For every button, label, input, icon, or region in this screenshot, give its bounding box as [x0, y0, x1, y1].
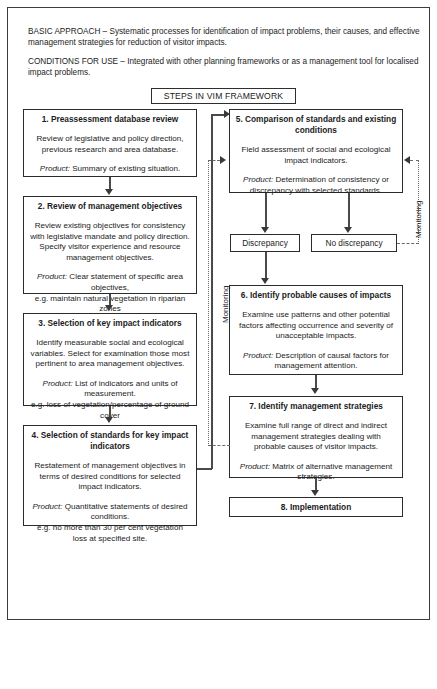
monitoring-left-dashed-vertical — [208, 160, 209, 446]
step-box-3: 3. Selection of key impact indicators Id… — [23, 313, 197, 406]
step-3-title: 3. Selection of key impact indicators — [29, 318, 191, 329]
connector-4-to-5-horizontal-out — [197, 468, 212, 470]
step-5-body: Field assessment of social and ecologica… — [235, 145, 397, 166]
step-6-body: Examine use patterns and other potential… — [235, 310, 397, 342]
step-2-product: Product: Clear statement of specific are… — [29, 272, 191, 293]
connector-5-to-discrepancy — [265, 193, 267, 229]
arrow-5-to-no-discrepancy — [344, 227, 352, 233]
monitoring-right-dashed-into-5 — [410, 160, 419, 161]
step-box-7: 7. Identify management strategies Examin… — [229, 396, 403, 478]
step-5-title: 5. Comparison of standards and existing … — [235, 114, 397, 136]
step-1-product-label: Product: — [40, 164, 70, 173]
basic-approach-paragraph: BASIC APPROACH – Systematic processes fo… — [28, 26, 423, 49]
arrow-6-to-7 — [311, 388, 319, 394]
step-7-title: 7. Identify management strategies — [235, 401, 397, 412]
step-3-product: Product: List of indicators and units of… — [29, 379, 191, 400]
arrow-monitoring-right-into-5 — [404, 156, 410, 164]
arrow-2-to-3 — [105, 305, 113, 311]
step-1-product: Product: Summary of existing situation. — [29, 164, 191, 175]
step-6-title: 6. Identify probable causes of impacts — [235, 290, 397, 301]
steps-banner: STEPS IN VIM FRAMEWORK — [151, 88, 296, 104]
arrow-3-to-4 — [105, 417, 113, 423]
arrow-monitoring-left-into-5 — [220, 156, 226, 164]
step-7-body: Examine full range of direct and indirec… — [235, 421, 397, 453]
step-3-body: Identify measurable social and ecologica… — [29, 338, 191, 370]
step-4-product: Product: Quantitative statements of desi… — [29, 502, 191, 523]
step-1-product-text: Summary of existing situation. — [70, 164, 180, 173]
step-box-4: 4. Selection of standards for key impact… — [23, 425, 197, 526]
step-4-title: 4. Selection of standards for key impact… — [29, 430, 191, 452]
step-5-product-label: Product: — [243, 175, 273, 184]
steps-banner-label: STEPS IN VIM FRAMEWORK — [164, 91, 283, 101]
decision-discrepancy-label: Discrepancy — [242, 238, 288, 248]
arrow-7-to-8 — [311, 490, 319, 496]
arrow-1-to-2 — [105, 189, 113, 195]
connector-5-to-no-discrepancy — [348, 193, 350, 229]
step-7-product-label: Product: — [240, 462, 270, 471]
step-2-title: 2. Review of management objectives — [29, 201, 191, 212]
monitoring-left-dashed-from-7 — [208, 445, 230, 446]
connector-4-to-5-horizontal-in — [211, 114, 225, 116]
step-box-5: 5. Comparison of standards and existing … — [229, 109, 403, 193]
step-5-product: Product: Determination of consistency or… — [235, 175, 397, 196]
conditions-for-use-paragraph: CONDITIONS FOR USE – Integrated with oth… — [28, 56, 423, 79]
step-6-product-label: Product: — [243, 351, 273, 360]
step-box-2: 2. Review of management objectives Revie… — [23, 196, 197, 294]
step-6-product-text: Description of causal factors for manage… — [273, 351, 389, 371]
step-1-body: Review of legislative and policy directi… — [29, 134, 191, 155]
arrow-discrepancy-to-6 — [261, 278, 269, 284]
step-box-1: 1. Preassessment database review Review … — [23, 109, 197, 177]
connector-4-to-5-vertical — [211, 114, 213, 469]
monitoring-left-text: Monitoring — [221, 286, 230, 323]
arrow-5-to-discrepancy — [261, 227, 269, 233]
decision-no-discrepancy-label: No discrepancy — [325, 238, 382, 248]
step-3-product-label: Product: — [43, 379, 73, 388]
step-1-title: 1. Preassessment database review — [29, 114, 191, 125]
step-8-label: 8. Implementation — [281, 502, 352, 512]
connector-discrepancy-to-6 — [265, 252, 267, 280]
monitoring-label-left: Monitoring — [221, 286, 230, 323]
monitoring-right-dashed-from-no-discrepancy — [397, 243, 419, 244]
figure-canvas: BASIC APPROACH – Systematic processes fo… — [0, 0, 437, 689]
step-4-product-text: Quantitative statements of desired condi… — [63, 502, 188, 522]
step-box-6: 6. Identify probable causes of impacts E… — [229, 285, 403, 375]
step-4-product-label: Product: — [32, 502, 62, 511]
monitoring-right-text: Monitoring — [414, 201, 423, 238]
monitoring-label-right: Monitoring — [414, 201, 423, 238]
step-7-product-text: Matrix of alternative management strateg… — [270, 462, 392, 482]
step-4-body: Restatement of management objectives in … — [29, 461, 191, 493]
step-2-body: Review existing objectives for consisten… — [29, 221, 191, 263]
monitoring-left-dashed-into-5 — [208, 160, 220, 161]
decision-box-discrepancy: Discrepancy — [230, 234, 300, 252]
step-box-8-implementation: 8. Implementation — [229, 497, 403, 517]
step-6-product: Product: Description of causal factors f… — [235, 351, 397, 372]
figure-outer-frame: BASIC APPROACH – Systematic processes fo… — [7, 7, 430, 620]
decision-box-no-discrepancy: No discrepancy — [311, 234, 397, 252]
step-2-product-label: Product: — [37, 272, 67, 281]
step-3-product-text: List of indicators and units of measurem… — [73, 379, 178, 399]
step-2-product-text: Clear statement of specific area objecti… — [67, 272, 183, 292]
step-4-example: e.g. no more than 30 per cent vegetation… — [29, 523, 191, 544]
